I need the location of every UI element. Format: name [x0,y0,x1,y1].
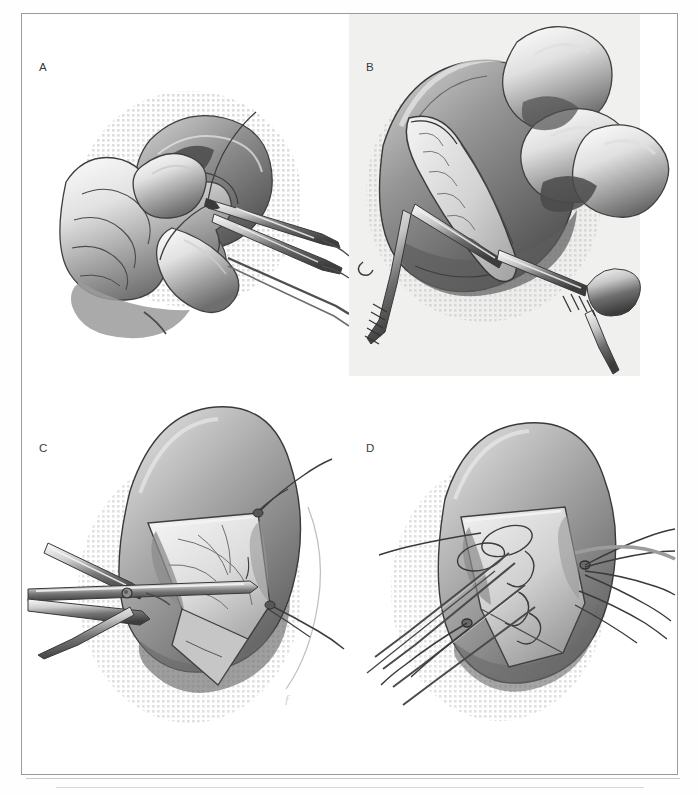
figure-page: A [0,0,698,795]
panel-a: A [22,14,349,395]
panel-b: B [349,14,677,395]
panel-label-a: A [39,62,47,74]
panel-d: D [349,395,677,774]
panel-label-b: B [366,62,374,74]
panel-c-illustration [22,395,349,774]
frame-drop-shadow [26,778,680,779]
panel-c: C ƒ [22,395,349,774]
artist-signature: ƒ [284,691,291,707]
panel-d-illustration [349,395,677,774]
panel-label-c: C [39,443,48,455]
panel-b-illustration [349,14,677,395]
panel-label-d: D [366,443,375,455]
bottom-divider-rule [56,787,644,788]
panel-a-illustration [22,14,349,395]
